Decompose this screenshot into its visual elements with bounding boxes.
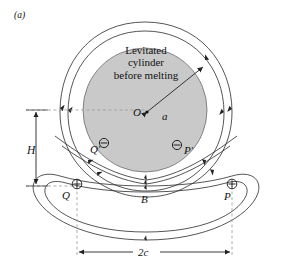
center-point-marker [145,110,148,113]
negative-charge-right-letter: P [184,144,191,156]
midpoint-label: B [141,193,148,205]
figure-container: (a) Levitated cylinder before melting O … [0,0,292,276]
negative-charge-left-prime: ′ [98,144,100,155]
negative-charge-left-label: Q′ [90,139,100,157]
center-point-label: O [133,106,141,118]
plus-charge-right-icon [227,179,237,189]
positive-charge-right-label: P [224,190,231,202]
flow-arrow-top-right [202,54,210,62]
figure-drawing [0,0,292,276]
radius-label: a [162,110,168,122]
cylinder-caption: Levitated cylinder before melting [96,44,196,81]
flow-arrow-at-b-3 [143,184,148,190]
cylinder-caption-line-1: Levitated [96,44,196,56]
width-dimension-label: 2c [138,246,148,258]
negative-charge-right-label: P′ [184,140,193,158]
cylinder-caption-line-3: before melting [96,69,196,81]
negative-charge-left-letter: Q [90,143,98,155]
cylinder-caption-line-2: cylinder [96,56,196,68]
negative-charge-right-prime: ′ [191,145,193,156]
height-dimension-label: H [27,144,35,157]
flow-arrow-inner-right-2 [209,168,217,176]
flow-arrow-bottom [143,235,148,241]
point-marker-group [145,110,148,113]
positive-charge-left-label: Q [62,189,70,201]
panel-letter: (a) [14,10,25,21]
plus-charge-left-icon [72,179,82,189]
